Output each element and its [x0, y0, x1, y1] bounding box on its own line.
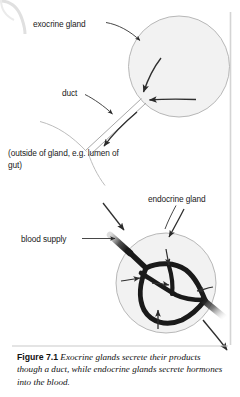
duct-leader [85, 95, 113, 115]
hormone-arrow-top-right [169, 209, 184, 237]
duct-wall-upper [86, 99, 142, 151]
label-blood-supply: blood supply [21, 234, 66, 244]
hormone-arrow-top-left [103, 203, 124, 230]
figure-caption-number: Figure 7.1 [17, 352, 58, 362]
page-edge-corner [0, 1, 25, 34]
exocrine-gland-leader [106, 23, 140, 41]
endocrine-gland-leader [165, 206, 176, 230]
label-duct: duct [62, 88, 77, 98]
label-endocrine-gland: endocrine gland [148, 194, 206, 204]
label-outside-of-gland: (outside of gland, e.g. lumen of gut) [8, 148, 120, 171]
endocrine-gland-circle [116, 233, 216, 333]
exocrine-gland-circle [129, 16, 230, 117]
label-exocrine-gland: exocrine gland [33, 19, 86, 29]
figure-caption: Figure 7.1 Exocrine glands secrete their… [17, 351, 227, 388]
figure-page: exocrine gland duct (outside of gland, e… [0, 0, 240, 397]
lumen-wall-upper [40, 122, 87, 152]
